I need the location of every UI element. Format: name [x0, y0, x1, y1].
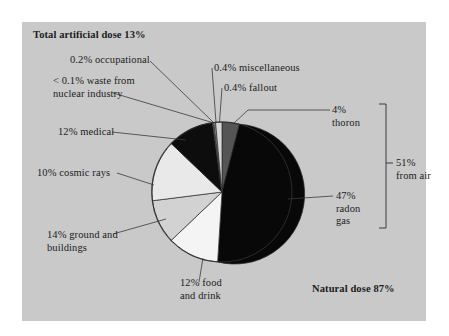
title-artificial-dose: Total artificial dose 13%: [33, 29, 146, 42]
title-natural-dose: Natural dose 87%: [312, 283, 395, 296]
leader-line-cosmic-rays: [117, 173, 154, 185]
label-radon-gas: 47% radon gas: [336, 190, 360, 228]
figure-root: Total artificial dose 13% 0.2% occupatio…: [0, 0, 449, 336]
label-waste-nuclear-industry: < 0.1% waste from nuclear industry: [53, 75, 135, 100]
label-from-air: 51% from air: [396, 157, 431, 182]
label-ground-and-buildings: 14% ground and buildings: [47, 229, 118, 254]
label-occupational: 0.2% occupational: [70, 54, 150, 67]
from-air-bracket: [379, 104, 386, 228]
leader-line-ground-buildings: [113, 219, 166, 234]
label-miscellaneous: 0.4% miscellaneous: [214, 62, 300, 75]
label-cosmic-rays: 10% cosmic rays: [37, 167, 110, 180]
label-thoron: 4% thoron: [332, 104, 360, 129]
leader-line-fallout: [220, 88, 223, 122]
leader-line-medical: [112, 132, 186, 140]
label-fallout: 0.4% fallout: [224, 82, 277, 95]
leader-line-miscellaneous: [212, 68, 216, 122]
label-medical: 12% medical: [58, 126, 114, 139]
label-food-and-drink: 12% food and drink: [180, 277, 222, 302]
leader-line-thoron: [233, 110, 331, 125]
